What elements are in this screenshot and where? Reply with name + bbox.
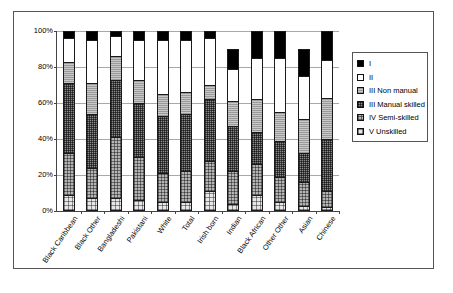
y-tick-mark: [54, 175, 57, 176]
bar-segment: [204, 191, 216, 211]
bar-segment: [63, 195, 75, 211]
legend-item: IV Semi-skilled: [357, 111, 424, 125]
x-tick-mark: [175, 211, 176, 214]
bar-segment: [204, 31, 216, 38]
bar-segment: [204, 85, 216, 99]
bar-segment: [86, 40, 98, 83]
legend-label: V Unskilled: [369, 128, 407, 136]
x-tick-mark: [81, 211, 82, 214]
legend-item: III Manual skilled: [357, 98, 424, 112]
bar-irish-born: [204, 31, 216, 211]
y-tick-label: 40%: [38, 135, 53, 143]
bar-segment: [180, 31, 192, 40]
bar-segment: [63, 153, 75, 194]
bar-segment: [86, 198, 98, 211]
x-tick-mark: [269, 211, 270, 214]
legend-swatch-icon: [357, 128, 364, 135]
y-tick-mark: [54, 31, 57, 32]
bar-segment: [180, 114, 192, 172]
bar-segment: [157, 31, 169, 40]
legend-swatch-icon: [357, 60, 364, 67]
bar-segment: [133, 103, 145, 157]
bar-segment: [321, 98, 333, 139]
bar-segment: [251, 164, 263, 195]
bar-segment: [274, 141, 286, 177]
bar-black-african: [251, 31, 263, 211]
bar-segment: [274, 31, 286, 58]
legend-swatch-icon: [357, 101, 364, 108]
plot-area: 0%20%40%60%80%100% Black CaribbeanBlack …: [56, 31, 339, 212]
bar-segment: [298, 153, 310, 182]
legend-item: II: [357, 71, 424, 85]
bar-segment: [251, 132, 263, 164]
bar-segment: [157, 202, 169, 211]
bar-segment: [321, 31, 333, 60]
bar-segment: [227, 204, 239, 211]
bar-segment: [274, 112, 286, 141]
bar-segment: [110, 56, 122, 79]
bar-segment: [110, 137, 122, 198]
y-tick-label: 100%: [34, 27, 53, 35]
x-tick-mark: [198, 211, 199, 214]
x-tick-mark: [128, 211, 129, 214]
bar-segment: [133, 157, 145, 200]
x-tick-mark: [222, 211, 223, 214]
y-tick-mark: [54, 67, 57, 68]
x-tick-mark: [339, 211, 340, 214]
y-tick-label: 60%: [38, 99, 53, 107]
bar-segment: [274, 202, 286, 211]
bar-segment: [251, 31, 263, 58]
bar-segment: [133, 40, 145, 80]
bar-segment: [180, 92, 192, 114]
bar-segment: [110, 80, 122, 138]
x-tick-mark: [104, 211, 105, 214]
bar-segment: [227, 69, 239, 101]
bar-segment: [180, 202, 192, 211]
bar-segment: [298, 49, 310, 76]
bar-segment: [321, 60, 333, 98]
gridline: [57, 175, 339, 176]
x-tick-mark: [292, 211, 293, 214]
legend-swatch-icon: [357, 114, 364, 121]
bar-segment: [204, 99, 216, 160]
bar-segment: [298, 206, 310, 211]
x-tick-mark: [245, 211, 246, 214]
legend-swatch-icon: [357, 74, 364, 81]
bar-black-caribbean: [63, 31, 75, 211]
bar-other-other: [274, 31, 286, 211]
x-tick-mark: [151, 211, 152, 214]
bar-segment: [86, 168, 98, 199]
bar-segment: [274, 177, 286, 202]
bar-segment: [63, 62, 75, 84]
bar-segment: [157, 173, 169, 202]
y-tick-label: 80%: [38, 63, 53, 71]
legend-label: III Manual skilled: [369, 101, 425, 109]
bar-segment: [298, 76, 310, 119]
legend-swatch-icon: [357, 87, 364, 94]
bar-bangladeshi: [110, 31, 122, 211]
bar-segment: [251, 58, 263, 99]
y-tick-label: 0%: [42, 207, 53, 215]
legend-label: II: [369, 74, 373, 82]
y-tick-mark: [54, 103, 57, 104]
bar-segment: [251, 195, 263, 211]
gridline: [57, 31, 339, 32]
bar-segment: [227, 126, 239, 171]
bar-segment: [86, 83, 98, 114]
y-tick-mark: [54, 211, 57, 212]
bar-white: [157, 31, 169, 211]
bar-segment: [133, 80, 145, 103]
bar-segment: [133, 31, 145, 40]
legend-item: I: [357, 57, 424, 71]
gridline: [57, 139, 339, 140]
bar-segment: [110, 198, 122, 211]
bar-segment: [180, 171, 192, 202]
legend-label: I: [369, 60, 371, 68]
bar-segment: [321, 191, 333, 207]
bar-segment: [133, 200, 145, 211]
bar-black-other: [86, 31, 98, 211]
bar-segment: [63, 38, 75, 61]
gridline: [57, 103, 339, 104]
bar-segment: [157, 40, 169, 94]
bar-segment: [227, 101, 239, 126]
